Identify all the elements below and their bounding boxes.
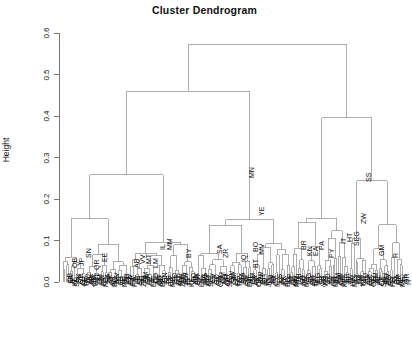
leaf-label-emphasis: SEG bbox=[353, 231, 360, 246]
leaf-label-emphasis: MT bbox=[145, 254, 152, 264]
y-tick-0.0: 0.0 bbox=[42, 276, 51, 287]
leaf-label-emphasis: ZR bbox=[222, 249, 229, 258]
leaf-label-emphasis: MN bbox=[248, 167, 255, 178]
y-tick-0.6: 0.6 bbox=[42, 27, 51, 38]
leaf-label-emphasis: SS bbox=[365, 173, 372, 182]
leaf-label-emphasis: JP bbox=[78, 258, 85, 266]
leaf-label-emphasis: PY bbox=[328, 249, 335, 258]
y-tick-0.1: 0.1 bbox=[42, 235, 51, 246]
leaf-label-emphasis: BT bbox=[252, 259, 259, 268]
leaf-label-emphasis: YE bbox=[258, 207, 265, 216]
leaf-label-emphasis: IQ bbox=[240, 255, 247, 262]
leaf-label-emphasis: ZW bbox=[360, 213, 367, 224]
leaf-label-emphasis: GM bbox=[378, 245, 385, 256]
y-tick-0.2: 0.2 bbox=[42, 193, 51, 204]
leaf-label-emphasis: PA bbox=[318, 241, 325, 250]
leaf-label-emphasis: QB bbox=[71, 258, 78, 268]
dendrogram-tree bbox=[63, 45, 402, 282]
y-tick-0.5: 0.5 bbox=[42, 69, 51, 80]
leaf-label-emphasis: SN bbox=[85, 248, 92, 258]
y-axis bbox=[54, 33, 59, 282]
y-tick-0.4: 0.4 bbox=[42, 110, 51, 121]
leaf-label-emphasis: MV bbox=[258, 244, 265, 255]
leaf-label-emphasis: HT bbox=[346, 233, 353, 242]
leaf-label-emphasis: MM bbox=[166, 238, 173, 250]
leaf-label-emphasis: BY bbox=[185, 249, 192, 258]
leaf-label-emphasis: LM bbox=[152, 258, 159, 268]
leaf-label-emphasis: R bbox=[392, 253, 399, 258]
leaf-label: IT bbox=[405, 279, 412, 285]
leaf-label-emphasis: QR bbox=[93, 260, 100, 271]
leaf-label-emphasis: IL bbox=[159, 244, 166, 250]
y-tick-0.3: 0.3 bbox=[42, 152, 51, 163]
leaf-label-emphasis: EE bbox=[101, 253, 108, 262]
